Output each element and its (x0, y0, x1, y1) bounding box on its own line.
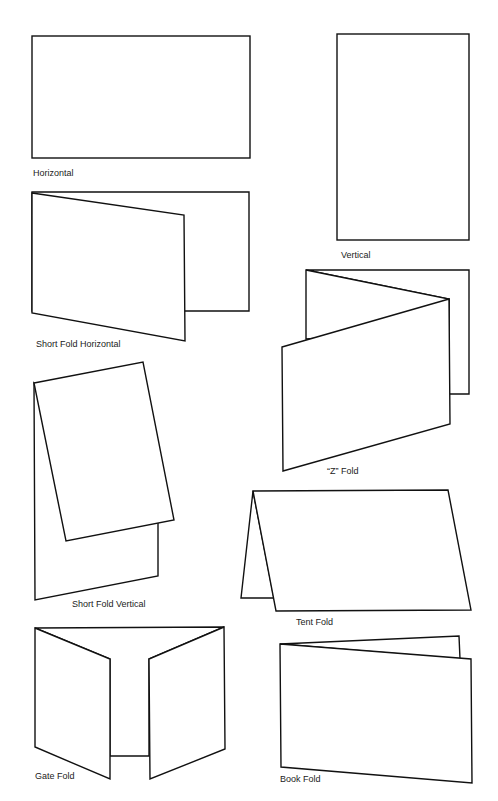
z-fold-label: “Z” Fold (327, 466, 359, 476)
short-fold-horizontal-label: Short Fold Horizontal (36, 339, 121, 349)
short-fold-vertical-label: Short Fold Vertical (72, 599, 146, 609)
short-fold-horizontal-front-panel (32, 193, 185, 341)
book-fold-figure: Book Fold (280, 636, 472, 784)
tent-fold-label: Tent Fold (296, 617, 333, 627)
horizontal-sheet (32, 36, 250, 158)
short-fold-vertical-figure: Short Fold Vertical (34, 362, 174, 609)
tent-fold-figure: Tent Fold (241, 490, 471, 627)
vertical-label: Vertical (341, 250, 371, 260)
vertical-sheet (337, 34, 469, 240)
short-fold-horizontal-figure: Short Fold Horizontal (32, 192, 249, 349)
vertical-fold-figure: Vertical (337, 34, 469, 260)
gate-fold-label: Gate Fold (35, 771, 75, 781)
horizontal-fold-figure: Horizontal (32, 36, 250, 178)
fold-types-diagram: Horizontal Vertical Short Fold Horizonta… (0, 0, 498, 801)
z-fold-figure: “Z” Fold (282, 270, 469, 476)
horizontal-label: Horizontal (33, 168, 74, 178)
book-fold-front-panel (280, 644, 472, 783)
book-fold-label: Book Fold (280, 774, 321, 784)
gate-fold-figure: Gate Fold (35, 627, 225, 781)
tent-fold-front-panel (253, 490, 471, 611)
